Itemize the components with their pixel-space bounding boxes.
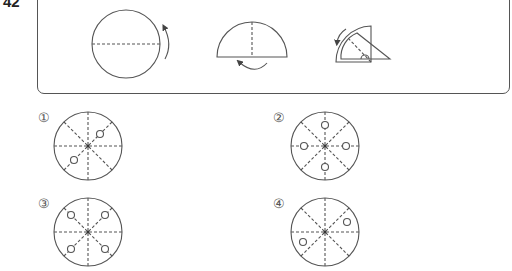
step-4-sector-with-hole <box>341 33 390 59</box>
option-3-label[interactable]: ③ <box>38 196 50 211</box>
option-1-label[interactable]: ① <box>38 110 50 125</box>
fold-arrow-icon <box>164 27 169 59</box>
fold-arrow-icon <box>239 62 267 69</box>
step-1-full-circle <box>92 10 169 78</box>
step-2-semicircle <box>217 22 287 69</box>
fold-arrow-icon <box>337 29 346 43</box>
option-4-label[interactable]: ④ <box>273 196 285 211</box>
figure-canvas <box>0 0 512 271</box>
option-2-label[interactable]: ② <box>273 110 285 125</box>
